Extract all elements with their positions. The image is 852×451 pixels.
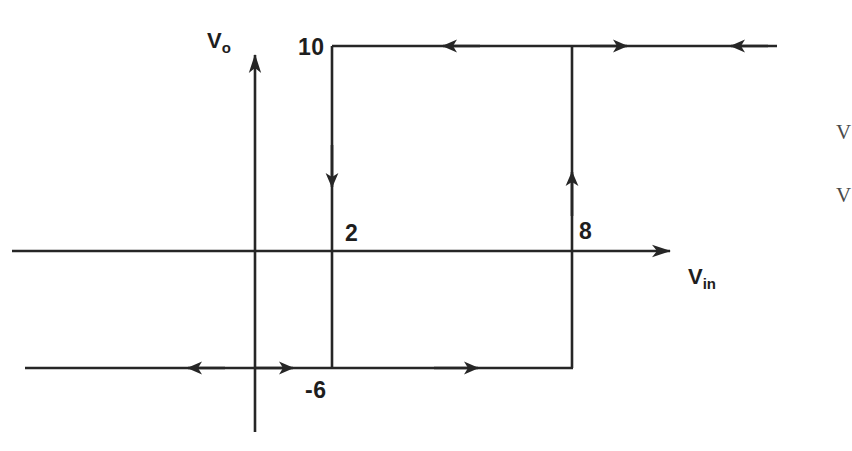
tick-label-upper-threshold: 8 — [579, 220, 592, 243]
x-axis-label-subscript: in — [703, 275, 716, 292]
tick-label-lower-threshold: 2 — [345, 222, 358, 245]
y-axis-label: Vo — [207, 30, 231, 55]
y-axis-label-text: V — [207, 28, 222, 53]
y-axis-label-subscript: o — [222, 39, 231, 56]
x-axis-label: Vin — [688, 266, 716, 291]
edge-label-upper: V — [836, 122, 851, 143]
tick-label-low-output: -6 — [305, 379, 326, 402]
x-axis-label-text: V — [688, 264, 703, 289]
tick-label-high-output: 10 — [298, 36, 325, 59]
hysteresis-figure: Vo Vin 10 2 8 -6 V V — [0, 0, 852, 451]
edge-label-lower: V — [836, 185, 851, 206]
hysteresis-plot — [0, 0, 852, 451]
